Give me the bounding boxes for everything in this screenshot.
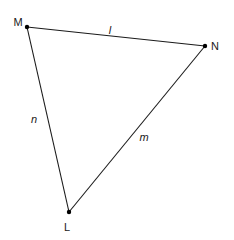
side-labels: l m n <box>31 24 149 143</box>
vertex-points <box>25 25 207 214</box>
triangle-diagram: M N L l m n <box>0 0 234 240</box>
vertex-label-l: L <box>64 221 70 233</box>
vertex-point-l <box>67 210 71 214</box>
vertex-label-n: N <box>211 40 219 52</box>
vertex-point-m <box>25 25 29 29</box>
side-m <box>69 46 205 212</box>
side-l <box>27 27 205 46</box>
side-label-l: l <box>109 24 112 36</box>
side-label-m: m <box>139 131 148 143</box>
vertex-labels: M N L <box>13 16 219 233</box>
vertex-point-n <box>203 44 207 48</box>
side-label-n: n <box>31 113 37 125</box>
vertex-label-m: M <box>13 16 22 28</box>
triangle-sides <box>27 27 205 212</box>
